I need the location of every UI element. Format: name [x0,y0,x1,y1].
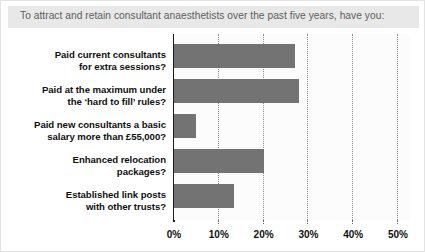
category-label-line-2: salary more than £55,000? [1,131,166,143]
category-label-line-1: Enhanced relocation [1,154,166,166]
gridline-50 [397,34,398,220]
category-label-line-1: Paid current consultants [1,49,166,61]
gridline-30 [307,34,308,220]
category-label-line-1: Established link posts [1,189,166,201]
xtick-20 [263,220,264,224]
category-label-line-2: the ‘hard to fill’ rules? [1,96,166,108]
category-label-established-link-posts: Established link posts with other trusts… [1,189,166,212]
category-label-line-2: packages? [1,166,166,178]
category-label-paid-new-consultants: Paid new consultants a basic salary more… [1,119,166,142]
bar-established-link-posts [174,184,234,208]
xtick-label-0: 0% [167,229,181,240]
xtick-label-40: 40% [343,229,363,240]
xtick-label-50: 50% [388,229,408,240]
xtick-40 [352,220,353,224]
bar-chart-figure: To attract and retain consultant anaesth… [0,0,425,252]
xtick-label-30: 30% [298,229,318,240]
xtick-50 [397,220,398,224]
xtick-label-10: 10% [209,229,229,240]
category-label-line-1: Paid new consultants a basic [1,119,166,131]
gridline-40 [352,34,353,220]
bar-paid-current-consultants [174,44,295,68]
chart-title: To attract and retain consultant anaesth… [20,10,384,21]
category-label-enhanced-relocation: Enhanced relocation packages? [1,154,166,177]
bar-paid-at-maximum [174,79,299,103]
category-label-paid-current-consultants: Paid current consultants for extra sessi… [1,49,166,72]
xtick-30 [307,220,308,224]
bar-paid-new-consultants [174,114,196,138]
plot-area [174,34,411,220]
bar-enhanced-relocation [174,149,264,173]
category-label-line-2: with other trusts? [1,201,166,213]
xtick-label-20: 20% [254,229,274,240]
category-label-paid-at-maximum: Paid at the maximum under the ‘hard to f… [1,84,166,107]
xtick-10 [218,220,219,224]
category-label-line-1: Paid at the maximum under [1,84,166,96]
category-label-line-2: for extra sessions? [1,61,166,73]
chart-title-band: To attract and retain consultant anaesth… [8,6,419,28]
